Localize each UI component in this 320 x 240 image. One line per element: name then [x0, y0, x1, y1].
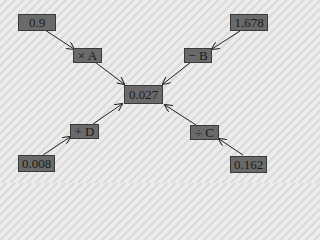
operation-node-c: ÷ C [190, 125, 219, 140]
value-node-c: 0.162 [230, 156, 267, 173]
edge-c-value-to-op [219, 139, 243, 155]
value-node-a: 0.9 [18, 14, 56, 31]
operation-node-b: − B [184, 48, 212, 63]
operation-node-a: × A [73, 48, 102, 63]
center-result-node: 0.027 [124, 85, 163, 104]
edge-d-op-to-center [93, 104, 122, 124]
value-node-d: 0.008 [18, 155, 55, 172]
operation-node-d: + D [70, 124, 99, 139]
value-node-b: 1.678 [230, 14, 268, 31]
edge-d-value-to-op [43, 137, 70, 155]
edge-c-op-to-center [165, 105, 196, 125]
edge-a-value-to-op [45, 30, 74, 49]
edge-b-value-to-op [212, 31, 240, 49]
edge-b-op-to-center [163, 62, 191, 84]
edge-a-op-to-center [95, 62, 124, 84]
